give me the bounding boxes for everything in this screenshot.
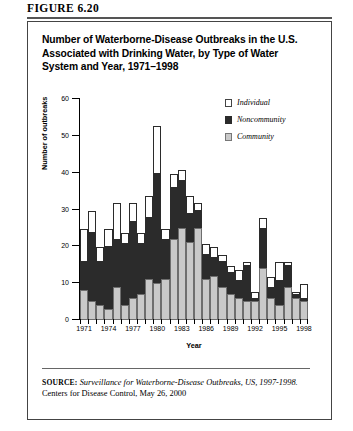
legend-item-community: Community	[225, 132, 285, 141]
y-tick-label: 30	[61, 205, 69, 212]
x-tick	[113, 319, 121, 324]
x-tick	[145, 319, 153, 324]
bar-segment-noncommunity	[202, 254, 210, 280]
y-tick-label: 60	[61, 95, 69, 102]
y-tick-label: 50	[61, 131, 69, 138]
bar-segment-individual	[153, 126, 161, 174]
x-tick	[88, 319, 96, 324]
bar-column	[145, 98, 153, 319]
x-tick-label: 1977	[125, 325, 141, 332]
bar-segment-individual	[170, 174, 178, 189]
bar-segment-community	[227, 294, 235, 320]
bar-segment-community	[243, 301, 251, 319]
bar-segment-community	[129, 298, 137, 320]
x-axis-title: Year	[80, 341, 308, 350]
x-tick-label: 1974	[101, 325, 117, 332]
bar-segment-individual	[80, 229, 88, 262]
bar-segment-individual	[275, 262, 283, 280]
bar-segment-community	[259, 268, 267, 320]
bar-column	[300, 98, 308, 319]
source-citation: Surveillance for Waterborne-Disease Outb…	[80, 378, 298, 387]
x-tick-label: 1971	[76, 325, 92, 332]
legend-item-individual: Individual	[225, 98, 285, 107]
y-tick	[72, 135, 79, 136]
bar-segment-noncommunity	[218, 261, 226, 287]
bar-segment-noncommunity	[137, 243, 145, 295]
y-tick-label: 0	[65, 316, 69, 323]
bar-segment-noncommunity	[227, 273, 235, 295]
x-tick	[243, 319, 251, 324]
bar-segment-individual	[145, 196, 153, 218]
x-tick-label: 1980	[150, 325, 166, 332]
bar-segment-noncommunity	[194, 210, 202, 228]
bar-segment-community	[153, 283, 161, 320]
bar-column	[178, 98, 186, 319]
y-tick	[72, 98, 79, 99]
x-tick	[227, 319, 235, 324]
bar-segment-noncommunity	[170, 188, 178, 240]
x-tick-label: 1989	[223, 325, 239, 332]
x-axis-ticks	[80, 319, 308, 324]
bar-segment-community	[300, 301, 308, 319]
bar-segment-noncommunity	[145, 217, 153, 280]
x-tick	[80, 319, 88, 324]
x-tick	[275, 319, 283, 324]
figure-rule	[27, 17, 332, 19]
x-tick	[235, 319, 243, 324]
bar-segment-individual	[113, 203, 121, 240]
x-tick	[300, 319, 308, 324]
bar-segment-community	[210, 276, 218, 320]
bar-column	[194, 98, 202, 319]
y-tick	[72, 209, 79, 210]
community-swatch-icon	[225, 133, 232, 141]
bar-segment-community	[137, 294, 145, 320]
y-tick-label: 10	[61, 279, 69, 286]
bar-segment-noncommunity	[259, 228, 267, 269]
bar-segment-noncommunity	[104, 247, 112, 310]
x-tick-label: 1992	[247, 325, 263, 332]
chart-legend: Individual Noncommunity Community	[225, 98, 285, 149]
y-axis-title: Number of outbreaks	[40, 97, 49, 170]
bar-segment-individual	[300, 284, 308, 299]
legend-label-individual: Individual	[237, 98, 270, 107]
bar-segment-individual	[96, 247, 104, 262]
bar-segment-community	[292, 298, 300, 320]
bar-column	[113, 98, 121, 319]
source-note: SOURCE: Surveillance for Waterborne-Dise…	[42, 377, 318, 400]
x-tick	[267, 319, 275, 324]
bar-segment-noncommunity	[284, 265, 292, 287]
bar-segment-community	[88, 301, 96, 319]
y-tick	[72, 172, 79, 173]
bar-segment-community	[113, 287, 121, 320]
bar-segment-noncommunity	[275, 280, 283, 306]
bar-column	[80, 98, 88, 319]
bar-column	[161, 98, 169, 319]
chart-title: Number of Waterborne-Disease Outbreaks i…	[42, 33, 310, 74]
bar-segment-community	[145, 279, 153, 320]
x-tick-label: 1983	[174, 325, 190, 332]
x-tick	[194, 319, 202, 324]
y-tick	[72, 245, 79, 246]
bar-column	[121, 98, 129, 319]
bar-segment-noncommunity	[178, 180, 186, 228]
bar-segment-individual	[186, 196, 194, 214]
bar-segment-individual	[88, 211, 96, 233]
bar-segment-noncommunity	[235, 280, 243, 298]
bar-column	[170, 98, 178, 319]
bar-segment-noncommunity	[96, 261, 104, 305]
bar-segment-individual	[129, 203, 137, 221]
x-tick-label: 1986	[198, 325, 214, 332]
legend-label-community: Community	[237, 132, 274, 141]
source-rule	[42, 368, 310, 369]
bar-segment-noncommunity	[153, 173, 161, 284]
bar-segment-community	[218, 287, 226, 320]
bar-segment-individual	[104, 229, 112, 247]
bar-segment-community	[267, 298, 275, 320]
bar-segment-noncommunity	[113, 239, 121, 287]
bar-segment-community	[80, 290, 88, 319]
x-tick	[161, 319, 169, 324]
figure-frame: Number of Waterborne-Disease Outbreaks i…	[27, 21, 332, 420]
legend-item-noncommunity: Noncommunity	[225, 115, 285, 124]
figure-page: FIGURE 6.20 Number of Waterborne-Disease…	[0, 0, 353, 431]
x-tick	[218, 319, 226, 324]
